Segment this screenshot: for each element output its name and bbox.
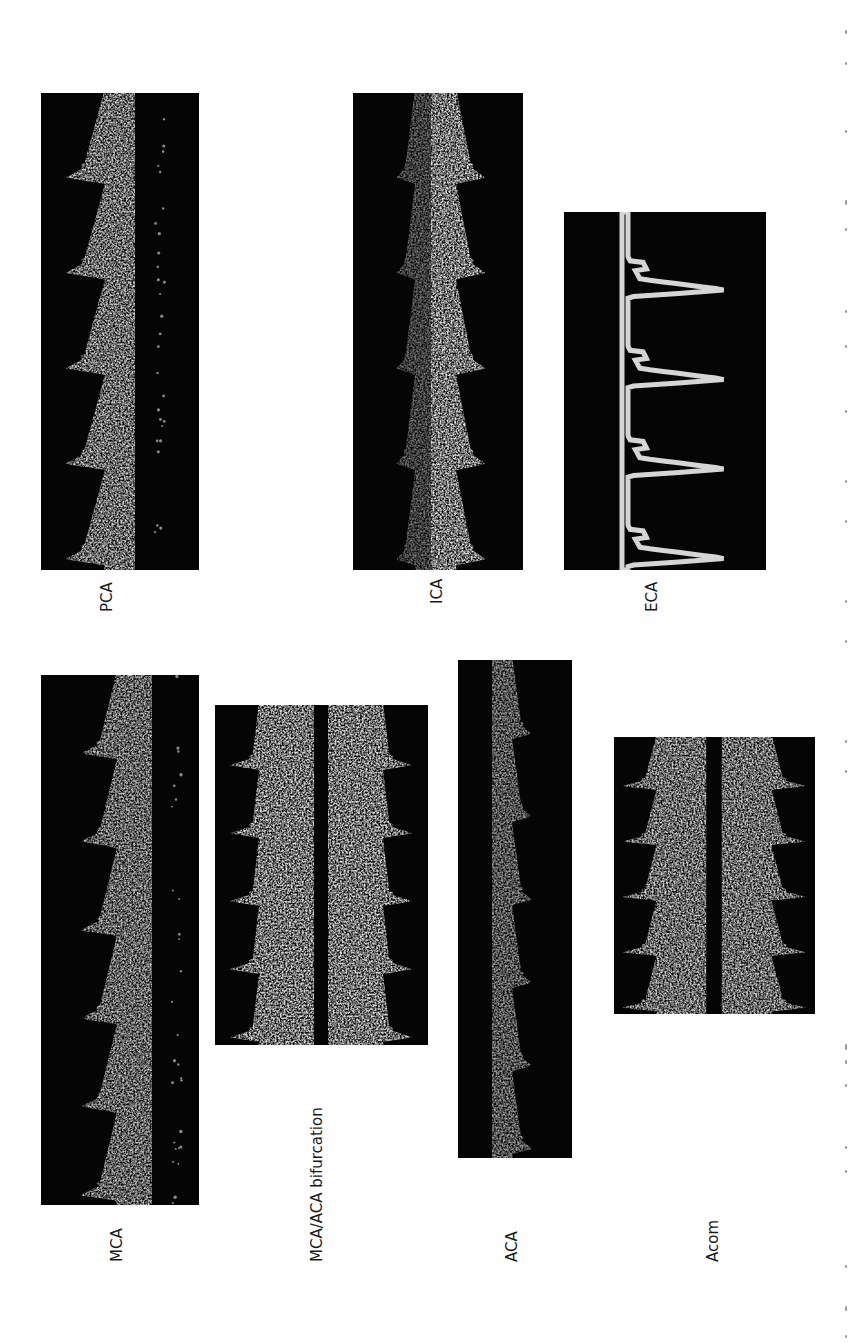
cut-off-caption <box>843 0 849 1343</box>
spectral-waveform <box>328 705 412 1045</box>
panel-label-eca: ECA <box>645 582 660 612</box>
panel-label-pca: PCA <box>100 582 115 612</box>
doppler-panel-eca <box>564 212 766 570</box>
doppler-panel-ica <box>353 93 523 570</box>
panel-label-acom: Acom <box>706 1220 721 1262</box>
spectral-waveform <box>622 212 724 570</box>
doppler-panel-acom <box>614 737 815 1014</box>
spectral-waveform <box>230 705 314 1045</box>
spectral-waveform <box>396 93 431 570</box>
spectral-waveform <box>492 660 532 1158</box>
panel-label-aca: ACA <box>505 1231 520 1262</box>
doppler-panel-mca-aca <box>215 705 428 1045</box>
panel-label-mca: MCA <box>110 1228 125 1262</box>
spectral-waveform <box>622 737 706 1014</box>
doppler-panel-pca <box>41 93 199 570</box>
panel-label-ica: ICA <box>430 579 445 604</box>
doppler-panel-aca <box>458 660 572 1158</box>
spectral-waveform <box>66 93 135 570</box>
spectral-waveform <box>722 737 806 1014</box>
spectral-waveform <box>431 93 486 570</box>
spectral-waveform <box>81 675 152 1205</box>
panel-label-mca-aca: MCA/ACA bifurcation <box>310 1107 325 1262</box>
doppler-panel-mca <box>41 675 199 1205</box>
